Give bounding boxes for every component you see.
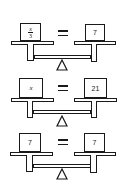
right-pan-box: 7 <box>84 133 105 152</box>
right-value: 7 <box>93 139 97 146</box>
equals-sign <box>58 85 68 91</box>
left-pan-box: x <box>19 78 43 98</box>
right-value: 21 <box>92 85 100 92</box>
equals-sign <box>58 139 68 145</box>
equals-bar-bottom <box>58 144 68 146</box>
left-post <box>26 155 33 172</box>
left-value: 7 <box>28 139 32 146</box>
right-post <box>91 101 97 118</box>
left-value: x <box>29 84 32 92</box>
equals-bar-top <box>58 139 68 141</box>
left-pan-box: 7 <box>19 133 41 152</box>
right-post <box>90 155 97 173</box>
equals-bar-bottom <box>58 90 68 92</box>
equals-bar-top <box>58 85 68 87</box>
right-pan-box: 21 <box>84 78 107 98</box>
balance-scale-3: 7 7 <box>0 0 126 60</box>
balance-beam <box>33 110 91 114</box>
fulcrum-triangle-icon <box>56 59 68 71</box>
fulcrum-triangle-icon <box>56 168 68 180</box>
fulcrum-triangle-icon <box>56 115 68 127</box>
